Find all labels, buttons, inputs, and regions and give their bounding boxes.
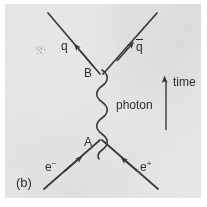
label-antiquark-text: q [136, 39, 143, 53]
label-electron-charge: − [52, 159, 57, 168]
label-vertex-a: A [84, 136, 92, 148]
label-positron-charge: + [147, 159, 152, 168]
feynman-diagram-figure: q q B photon A e− e+ time (b) [0, 0, 207, 207]
diagram-canvas [5, 4, 201, 198]
figure-caption: (b) [16, 176, 32, 189]
label-electron: e− [45, 161, 56, 173]
label-electron-symbol: e [45, 160, 52, 174]
figure-panel: q q B photon A e− e+ time (b) [5, 4, 201, 198]
label-positron-symbol: e [140, 160, 147, 174]
label-quark: q [61, 40, 68, 52]
propagator-photon-wavy [97, 70, 108, 159]
label-positron: e+ [140, 161, 151, 173]
label-vertex-b: B [84, 67, 92, 79]
leg-antiquark-out [103, 13, 157, 74]
label-photon: photon [116, 99, 153, 111]
label-antiquark: q [136, 39, 143, 53]
label-time-axis: time [173, 76, 196, 88]
scan-smudge-artifact [34, 44, 51, 57]
leg-quark-out [48, 13, 100, 74]
